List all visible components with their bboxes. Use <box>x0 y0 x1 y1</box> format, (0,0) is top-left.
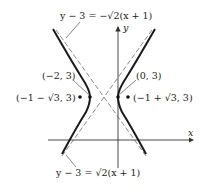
hyperbola-diagram: x y y − 3 = −√2(x + 1) y − 3 = √2(x + 1)… <box>0 0 199 190</box>
focus-right <box>126 95 130 99</box>
leader-top-asymptote <box>66 22 80 38</box>
vertex-label-left: (−2, 3) <box>42 70 76 81</box>
focus-left <box>78 95 82 99</box>
asymptote-label-top: y − 3 = −√2(x + 1) <box>59 10 152 21</box>
vertex-left <box>88 95 92 99</box>
leader-bottom-asymptote <box>66 155 76 167</box>
y-axis-label: y <box>122 22 129 33</box>
vertex-right <box>116 95 120 99</box>
x-axis-label: x <box>188 127 194 138</box>
focus-label-right: (−1 + √3, 3) <box>133 92 193 103</box>
vertex-label-right: (0, 3) <box>136 70 162 81</box>
asymptote-label-bottom: y − 3 = √2(x + 1) <box>55 167 140 178</box>
focus-label-left: (−1 − √3, 3) <box>16 92 76 103</box>
